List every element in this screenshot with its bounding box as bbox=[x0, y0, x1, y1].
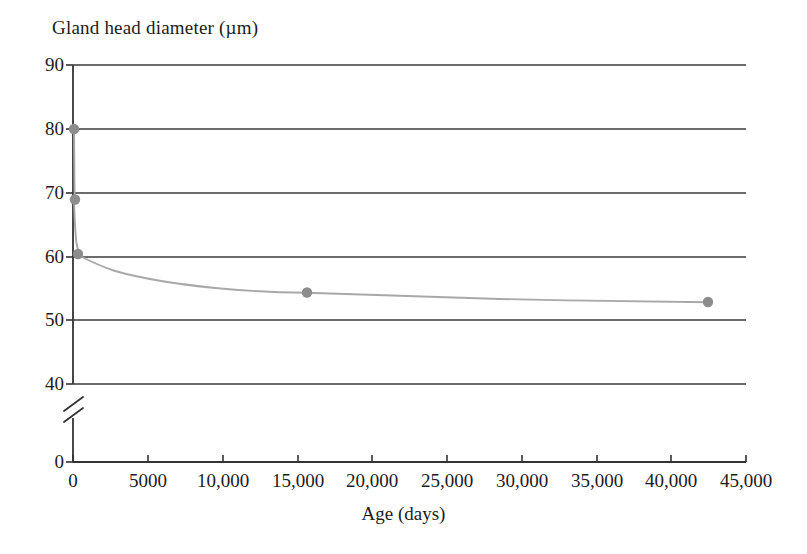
x-axis-label: Age (days) bbox=[0, 503, 807, 525]
gridlines bbox=[73, 65, 746, 384]
x-tick-label-45000: 45,000 bbox=[720, 470, 772, 492]
data-point[interactable] bbox=[73, 249, 83, 259]
initial-drop-segment bbox=[74, 129, 75, 196]
data-points bbox=[69, 124, 713, 307]
y-tick-label-90: 90 bbox=[6, 54, 64, 76]
fit-curve bbox=[74, 200, 708, 302]
y-tick-label-40: 40 bbox=[6, 373, 64, 395]
x-tick-marks bbox=[73, 455, 746, 462]
x-tick-label-25000: 25,000 bbox=[421, 470, 473, 492]
data-point[interactable] bbox=[69, 124, 79, 134]
x-tick-label-5000: 5000 bbox=[129, 470, 167, 492]
y-tick-label-80: 80 bbox=[6, 118, 64, 140]
y-tick-label-70: 70 bbox=[6, 182, 64, 204]
x-tick-label-10000: 10,000 bbox=[197, 470, 249, 492]
y-tick-label-60: 60 bbox=[6, 246, 64, 268]
x-tick-label-15000: 15,000 bbox=[272, 470, 324, 492]
x-tick-label-40000: 40,000 bbox=[645, 470, 697, 492]
y-tick-label-50: 50 bbox=[6, 309, 64, 331]
x-tick-label-35000: 35,000 bbox=[571, 470, 623, 492]
y-tick-label-0: 0 bbox=[6, 451, 64, 473]
x-tick-label-30000: 30,000 bbox=[496, 470, 548, 492]
data-point[interactable] bbox=[70, 194, 80, 204]
data-point[interactable] bbox=[302, 287, 312, 297]
x-tick-label-20000: 20,000 bbox=[346, 470, 398, 492]
data-point[interactable] bbox=[703, 297, 713, 307]
x-tick-label-0: 0 bbox=[68, 470, 78, 492]
chart-figure: Gland head diameter (µm) bbox=[0, 0, 807, 554]
